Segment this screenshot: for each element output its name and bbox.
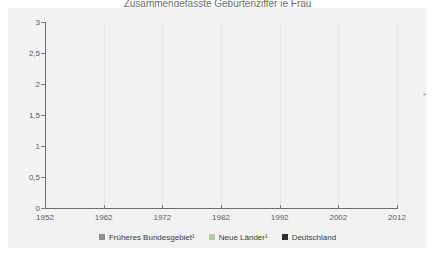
x-tick-mark: [45, 205, 46, 209]
footnote-asterisk: *: [423, 92, 426, 99]
legend-swatch-neue-laender: [209, 234, 215, 240]
y-tick-label: 3: [18, 18, 40, 27]
x-tick-label: 2002: [329, 213, 347, 222]
y-tick-label: 2,5: [18, 49, 40, 58]
y-tick-label: 2: [18, 80, 40, 89]
legend-swatch-deutschland: [282, 234, 288, 240]
x-tick-label: 1992: [271, 213, 289, 222]
gridline-vertical: [162, 22, 163, 208]
x-tick-mark: [280, 205, 281, 209]
x-tick-mark: [162, 205, 163, 209]
legend-label: Früheres Bundesgebiet¹: [109, 233, 195, 242]
x-tick-label: 1962: [95, 213, 113, 222]
plot-area: [45, 22, 397, 208]
y-axis-line: [45, 22, 46, 209]
chart-title-cropped: Zusammengefasste Geburtenziffer je Frau: [0, 0, 435, 7]
x-tick-label: 1952: [36, 213, 54, 222]
gridline-vertical: [104, 22, 105, 208]
x-tick-mark: [397, 205, 398, 209]
y-tick-label: 1,5: [18, 111, 40, 120]
y-tick-label: 0: [18, 204, 40, 213]
legend-item[interactable]: Deutschland: [282, 233, 336, 242]
y-tick-label: 1: [18, 142, 40, 151]
gridline-vertical: [338, 22, 339, 208]
x-tick-label: 2012: [388, 213, 406, 222]
x-tick-mark: [338, 205, 339, 209]
x-axis-labels: 1952196219721982199220022012: [45, 210, 397, 224]
chart-legend: Früheres Bundesgebiet¹Neue Länder¹Deutsc…: [0, 230, 435, 244]
x-tick-mark: [104, 205, 105, 209]
gridline-vertical: [280, 22, 281, 208]
legend-label: Deutschland: [292, 233, 336, 242]
legend-label: Neue Länder¹: [219, 233, 268, 242]
y-tick-label: 0,5: [18, 173, 40, 182]
legend-swatch-frueheres-bundesgebiet: [99, 234, 105, 240]
x-tick-mark: [221, 205, 222, 209]
x-tick-label: 1972: [153, 213, 171, 222]
legend-item[interactable]: Neue Länder¹: [209, 233, 268, 242]
legend-item[interactable]: Früheres Bundesgebiet¹: [99, 233, 195, 242]
gridline-vertical: [221, 22, 222, 208]
x-tick-label: 1982: [212, 213, 230, 222]
chart-screenshot: Zusammengefasste Geburtenziffer je Frau …: [0, 0, 435, 256]
y-axis-labels: 00,511,522,53: [16, 22, 40, 208]
gridline-vertical: [397, 22, 398, 208]
